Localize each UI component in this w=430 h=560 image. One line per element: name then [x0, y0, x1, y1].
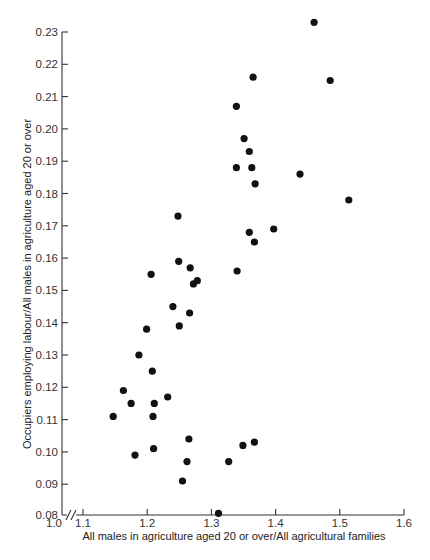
data-point: [246, 148, 253, 155]
data-point: [149, 368, 156, 375]
data-point: [345, 196, 352, 203]
data-point: [239, 442, 246, 449]
x-axis: 1.01.11.21.31.41.51.6: [46, 509, 412, 529]
x-tick-label: 1.2: [139, 517, 155, 529]
y-tick-label: 0.16: [36, 252, 58, 264]
data-point: [164, 393, 171, 400]
data-point: [148, 271, 155, 278]
y-tick-label: 0.09: [36, 478, 58, 490]
data-points: [110, 19, 353, 517]
x-axis-title: All males in agriculture aged 20 or over…: [82, 530, 386, 542]
data-point: [248, 164, 255, 171]
data-point: [186, 309, 193, 316]
data-point: [252, 180, 259, 187]
data-point: [250, 74, 257, 81]
data-point: [174, 213, 181, 220]
data-point: [234, 267, 241, 274]
y-tick-label: 0.17: [36, 220, 58, 232]
y-tick-label: 0.12: [36, 381, 58, 393]
data-point: [327, 77, 334, 84]
data-point: [215, 510, 222, 517]
data-point: [233, 164, 240, 171]
y-tick-label: 0.19: [36, 155, 58, 167]
data-point: [187, 264, 194, 271]
y-axis-title: Occupiers employing labour/All males in …: [21, 119, 33, 450]
data-point: [183, 458, 190, 465]
data-point: [151, 400, 158, 407]
data-point: [251, 238, 258, 245]
y-tick-label: 0.14: [36, 317, 59, 329]
y-tick-label: 0.21: [36, 91, 58, 103]
y-axis: 0.080.090.100.110.120.130.140.150.160.17…: [36, 26, 68, 521]
scatter-chart: 0.080.090.100.110.120.130.140.150.160.17…: [0, 0, 430, 560]
data-point: [149, 413, 156, 420]
x-tick-label: 1.0: [46, 517, 62, 529]
data-point: [175, 258, 182, 265]
y-tick-label: 0.20: [36, 123, 58, 135]
data-point: [150, 445, 157, 452]
data-point: [225, 458, 232, 465]
y-tick-label: 0.18: [36, 188, 58, 200]
data-point: [296, 171, 303, 178]
x-tick-label: 1.6: [396, 517, 412, 529]
data-point: [251, 439, 258, 446]
y-tick-label: 0.10: [36, 446, 58, 458]
data-point: [233, 103, 240, 110]
data-point: [185, 435, 192, 442]
y-tick-label: 0.13: [36, 349, 58, 361]
x-tick-label: 1.5: [332, 517, 348, 529]
x-tick-label: 1.4: [268, 517, 285, 529]
data-point: [311, 19, 318, 26]
data-point: [176, 322, 183, 329]
data-point: [143, 326, 150, 333]
data-point: [246, 229, 253, 236]
y-tick-label: 0.15: [36, 284, 58, 296]
data-point: [190, 280, 197, 287]
data-point: [135, 351, 142, 358]
data-point: [169, 303, 176, 310]
data-point: [131, 452, 138, 459]
data-point: [110, 413, 117, 420]
y-tick-label: 0.22: [36, 58, 58, 70]
data-point: [179, 477, 186, 484]
y-tick-label: 0.23: [36, 26, 58, 38]
data-point: [241, 135, 248, 142]
y-tick-label: 0.11: [36, 414, 58, 426]
data-point: [128, 400, 135, 407]
x-tick-label: 1.3: [203, 517, 219, 529]
x-tick-label: 1.1: [75, 517, 91, 529]
data-point: [120, 387, 127, 394]
data-point: [270, 225, 277, 232]
